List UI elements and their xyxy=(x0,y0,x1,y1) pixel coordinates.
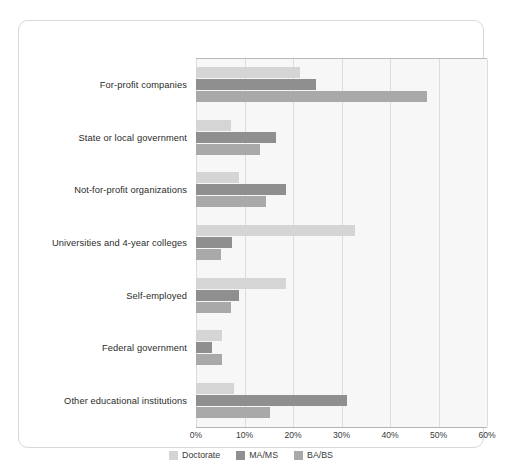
legend-swatch-icon xyxy=(236,451,245,460)
bar-ba-bs[interactable] xyxy=(196,144,260,155)
bar-ma-ms[interactable] xyxy=(196,395,347,406)
category-row: Self-employed xyxy=(19,269,483,322)
x-tick-label: 60% xyxy=(478,430,495,440)
x-tick-label: 40% xyxy=(381,430,398,440)
bar-ba-bs[interactable] xyxy=(196,196,266,207)
category-row: State or local government xyxy=(19,112,483,165)
category-row: Federal government xyxy=(19,322,483,375)
bar-doctorate[interactable] xyxy=(196,383,234,394)
legend-swatch-icon xyxy=(294,451,303,460)
bar-group xyxy=(196,328,487,368)
x-tick-label: 50% xyxy=(430,430,447,440)
legend-label: BA/BS xyxy=(307,450,333,460)
bar-group xyxy=(196,223,487,263)
category-label: Universities and 4-year colleges xyxy=(52,238,187,248)
category-label: Other educational institutions xyxy=(64,396,187,406)
category-row: Universities and 4-year colleges xyxy=(19,217,483,270)
bar-group xyxy=(196,170,487,210)
legend-label: MA/MS xyxy=(249,450,278,460)
x-axis-line xyxy=(196,427,487,428)
category-label: For-profit companies xyxy=(100,80,187,90)
chart-card: For-profit companiesState or local gover… xyxy=(18,20,484,448)
legend-item-ma-ms[interactable]: MA/MS xyxy=(236,450,278,460)
bar-ma-ms[interactable] xyxy=(196,290,239,301)
bar-ma-ms[interactable] xyxy=(196,342,212,353)
bar-ba-bs[interactable] xyxy=(196,302,231,313)
bar-doctorate[interactable] xyxy=(196,120,231,131)
chart-legend: DoctorateMA/MSBA/BS xyxy=(19,450,483,460)
category-row: Other educational institutions xyxy=(19,374,483,427)
legend-item-doctorate[interactable]: Doctorate xyxy=(169,450,220,460)
bar-ma-ms[interactable] xyxy=(196,132,276,143)
bar-ba-bs[interactable] xyxy=(196,91,427,102)
bar-ma-ms[interactable] xyxy=(196,237,232,248)
category-label: Self-employed xyxy=(126,291,187,301)
bar-doctorate[interactable] xyxy=(196,278,286,289)
bar-doctorate[interactable] xyxy=(196,67,300,78)
x-axis-ticks: 0%10%20%30%40%50%60% xyxy=(196,430,487,446)
legend-label: Doctorate xyxy=(182,450,220,460)
category-label: State or local government xyxy=(79,133,187,143)
bar-ma-ms[interactable] xyxy=(196,79,316,90)
bar-ba-bs[interactable] xyxy=(196,249,221,260)
bar-group xyxy=(196,381,487,421)
x-tick-label: 10% xyxy=(236,430,253,440)
bar-ba-bs[interactable] xyxy=(196,354,222,365)
bar-doctorate[interactable] xyxy=(196,330,222,341)
x-tick-label: 30% xyxy=(333,430,350,440)
x-tick-label: 0% xyxy=(190,430,202,440)
category-label: Federal government xyxy=(102,343,187,353)
x-tick-label: 20% xyxy=(284,430,301,440)
bar-ma-ms[interactable] xyxy=(196,184,286,195)
bar-group xyxy=(196,65,487,105)
category-row: Not-for-profit organizations xyxy=(19,164,483,217)
bar-doctorate[interactable] xyxy=(196,172,239,183)
gridline-60pct xyxy=(487,59,488,427)
category-row: For-profit companies xyxy=(19,59,483,112)
bar-ba-bs[interactable] xyxy=(196,407,270,418)
category-label: Not-for-profit organizations xyxy=(74,185,187,195)
bar-group xyxy=(196,118,487,158)
legend-item-ba-bs[interactable]: BA/BS xyxy=(294,450,333,460)
legend-swatch-icon xyxy=(169,451,178,460)
bar-group xyxy=(196,276,487,316)
bar-doctorate[interactable] xyxy=(196,225,355,236)
